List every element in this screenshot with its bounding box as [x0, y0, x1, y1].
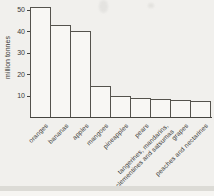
y-axis-title: million tonnes	[4, 28, 11, 88]
y-tick-label: 30	[5, 49, 25, 56]
y-tick-label: 50	[5, 6, 25, 13]
bar-chart-figure: million tonnes 1020304050 orangesbananas…	[0, 0, 214, 196]
x-axis-line	[30, 117, 212, 118]
scan-smudge	[99, 0, 108, 13]
bar-pineapples	[110, 96, 131, 118]
y-tick-label: 40	[5, 28, 25, 35]
scan-edge-band-lower	[0, 191, 214, 196]
x-tick-label: pears	[133, 122, 150, 139]
bar-grapes	[170, 100, 191, 117]
scan-smudge	[148, 3, 154, 8]
bar-peaches	[190, 101, 211, 117]
x-tick-label: bananas	[46, 122, 69, 145]
y-tick-label: 10	[5, 92, 25, 99]
y-tick-label: 20	[5, 71, 25, 78]
bar-apples	[70, 31, 91, 117]
bar-pears	[130, 98, 151, 117]
bar-oranges	[30, 7, 51, 117]
bar-tangerines	[150, 99, 171, 117]
bar-mangoes	[90, 86, 111, 117]
bar-bananas	[50, 25, 71, 117]
